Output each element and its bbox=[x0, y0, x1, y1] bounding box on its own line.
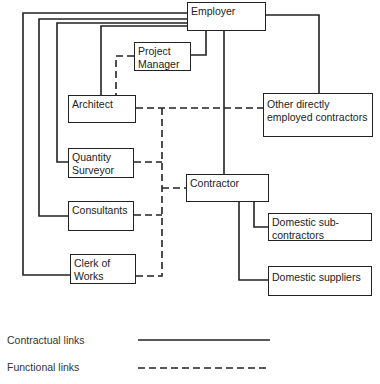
node-clerk-of-works: Clerk of Works bbox=[70, 254, 136, 284]
node-contractor: Contractor bbox=[186, 174, 269, 202]
node-project-manager: Project Manager bbox=[134, 42, 191, 71]
contractual-link-pm bbox=[190, 30, 206, 55]
node-consultants: Consultants bbox=[68, 201, 134, 231]
contractual-link-subcontractors bbox=[254, 201, 268, 227]
node-architect: Architect bbox=[68, 95, 136, 123]
node-domestic-subcontractors: Domestic sub- contractors bbox=[268, 213, 372, 241]
legend-functional-label: Functional links bbox=[7, 361, 79, 373]
node-employer: Employer bbox=[187, 2, 266, 31]
node-other-directly-employed-contractors: Other directly employed contractors bbox=[263, 93, 373, 137]
node-domestic-suppliers: Domestic suppliers bbox=[268, 266, 372, 296]
functional-link-pm bbox=[116, 56, 134, 95]
legend-contractual-label: Contractual links bbox=[7, 334, 85, 346]
node-quantity-surveyor: Quantity Surveyor bbox=[68, 148, 134, 178]
functional-link-architect-spine bbox=[136, 108, 162, 276]
contractual-link-other bbox=[265, 15, 319, 93]
